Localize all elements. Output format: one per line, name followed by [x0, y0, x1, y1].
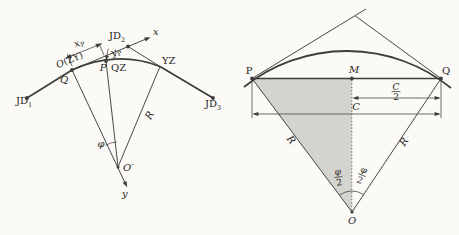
tangent-jd2-yz	[128, 47, 160, 67]
chord-label: C	[352, 101, 360, 112]
radius-p-line	[106, 61, 118, 167]
angle-right-label: φ 2	[354, 164, 369, 186]
chord-arrow-left-icon	[252, 112, 258, 116]
radius-label: R	[142, 109, 156, 122]
figure-svg: JD1 JD2 JD3 x y O(ZY) Q P QZ YZ xP yP φ …	[0, 0, 459, 235]
point-p-label: P	[246, 65, 253, 76]
angle-phi-label: φ	[97, 138, 104, 149]
point-q-label: Q	[442, 65, 450, 76]
x-axis-arrowhead-icon	[144, 37, 150, 41]
chord-arrow-right-icon	[435, 112, 441, 116]
m-point	[350, 77, 354, 81]
point-m-label: M	[348, 64, 360, 75]
tangent-yz-jd3	[160, 67, 213, 99]
xp-witness-right	[99, 43, 104, 55]
half-chord-arrow-right-icon	[435, 96, 441, 100]
half-chord-label: C 2	[392, 82, 401, 102]
point-p-label: P	[99, 62, 107, 73]
y-axis-label: y	[121, 188, 128, 199]
o-point	[350, 210, 353, 213]
x-axis-label: x	[153, 26, 159, 37]
label-jd3: JD3	[204, 98, 221, 112]
half-chord-arrow-left-icon	[352, 96, 358, 100]
svg-text:2: 2	[393, 92, 399, 102]
left-diagram: JD1 JD2 JD3 x y O(ZY) Q P QZ YZ xP yP φ …	[15, 26, 221, 199]
label-jd2: JD2	[108, 30, 125, 44]
jd2-point	[126, 45, 130, 49]
radius-right-label: R	[396, 135, 410, 149]
o-prime-point	[117, 166, 120, 169]
point-qz-label: QZ	[111, 62, 126, 73]
point-yz-label: YZ	[161, 55, 176, 66]
center-o-label: O	[348, 215, 356, 226]
point-q-label: Q	[60, 74, 68, 85]
y-axis-arrowhead-icon	[123, 181, 128, 187]
svg-text:2: 2	[355, 174, 364, 185]
tangent-right-line	[355, 16, 441, 79]
curve-diagram-figure: JD1 JD2 JD3 x y O(ZY) Q P QZ YZ xP yP φ …	[0, 0, 459, 235]
center-o-prime-label: O′	[123, 162, 134, 173]
p-point	[250, 77, 254, 81]
zy-point	[70, 68, 74, 72]
svg-text:C: C	[393, 82, 400, 92]
right-diagram: P M Q C 2 C R R φ 2 φ 2 O	[244, 9, 451, 226]
q-point	[439, 77, 443, 81]
